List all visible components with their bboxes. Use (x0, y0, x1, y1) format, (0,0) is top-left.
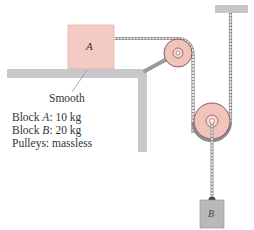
spec-block-b: Block B: 20 kg (12, 124, 81, 137)
surface-label: Smooth (49, 92, 85, 105)
spec-prefix: Block (12, 111, 42, 123)
spec-prefix: Pulleys: massless (12, 137, 92, 149)
ceiling-mount (215, 5, 248, 13)
fixed-pulley (164, 39, 192, 67)
spec-block-a: Block A: 10 kg (12, 111, 81, 124)
table-leg (138, 78, 147, 152)
table-top (7, 69, 147, 78)
spec-pulleys: Pulleys: massless (12, 137, 92, 150)
spec-prefix: Block (12, 124, 42, 136)
spec-suffix: : 10 kg (49, 111, 81, 123)
spec-suffix: : 20 kg (49, 124, 81, 136)
block-a-label: A (86, 40, 93, 53)
block-b-label: B (208, 208, 214, 221)
